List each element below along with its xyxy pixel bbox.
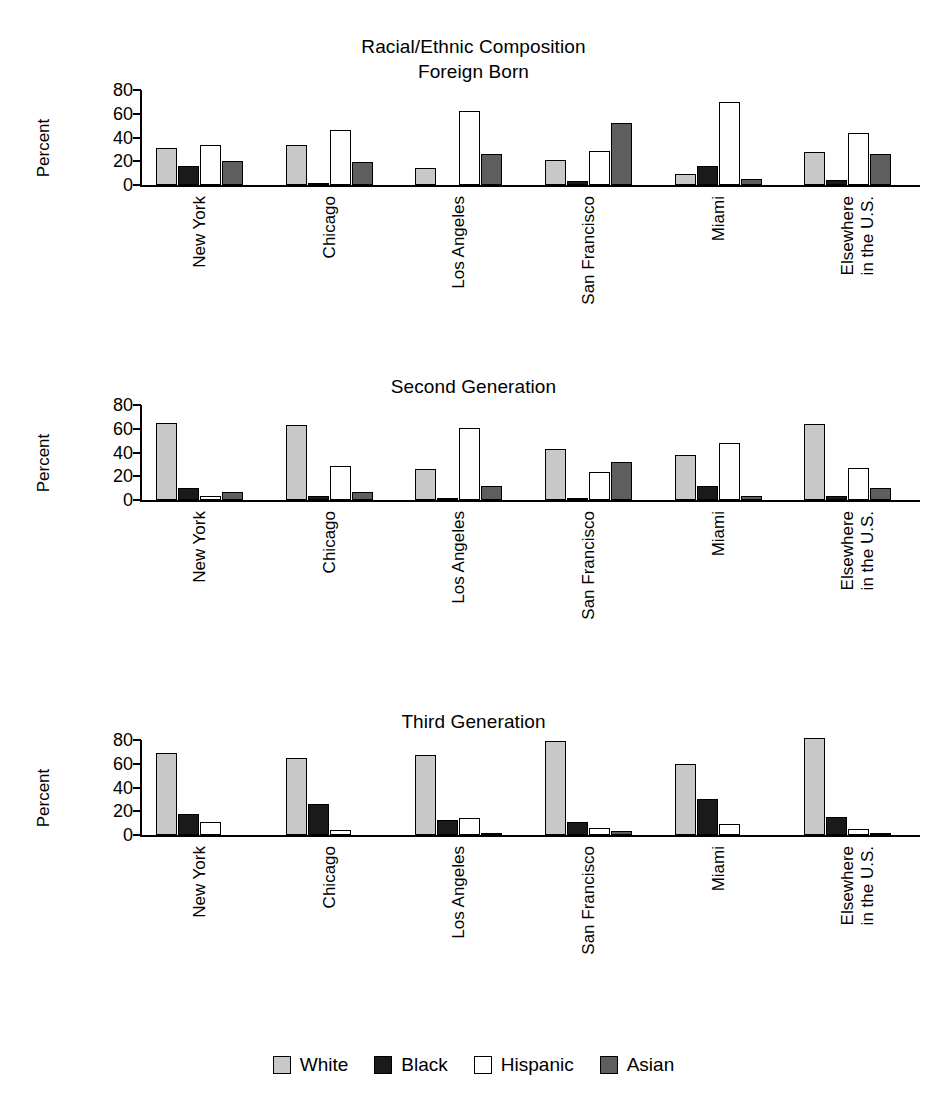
y-axis-label-0: Percent (34, 198, 134, 218)
bar-white (545, 741, 566, 835)
x-axis-line-1 (140, 500, 920, 502)
bar-white (156, 148, 177, 185)
y-tick-mark (133, 739, 141, 741)
bar-white (675, 174, 696, 185)
bar-group (415, 740, 503, 835)
chart-panel-third-generation: Third Generation Percent 020406080 New Y… (0, 705, 947, 1035)
y-tick-mark (133, 160, 141, 162)
bar-asian (481, 833, 502, 835)
y-axis-label-2: Percent (34, 848, 134, 868)
bar-group (415, 90, 503, 185)
bar-white (156, 423, 177, 500)
legend-swatch-asian (600, 1056, 618, 1074)
y-tick-label: 20 (113, 467, 133, 485)
bar-group (804, 740, 892, 835)
bar-group (286, 90, 374, 185)
x-tick-label-line: Miami (709, 846, 729, 978)
y-tick-mark (133, 787, 141, 789)
x-tick-labels-1: New YorkChicagoLos AngelesSan FranciscoM… (142, 507, 920, 642)
y-tick-label: 20 (113, 152, 133, 170)
x-tick-label-line: New York (190, 196, 210, 328)
plot-area-0: Percent 020406080 New YorkChicagoLos Ang… (0, 90, 947, 205)
panel-title-2: Third Generation (0, 705, 947, 734)
y-tick-labels-2: 020406080 (92, 740, 138, 835)
bar-white (545, 160, 566, 185)
legend-label-white: White (300, 1055, 349, 1074)
y-axis-label-1: Percent (34, 513, 134, 533)
y-tick-label: 0 (123, 826, 133, 844)
legend-item-asian[interactable]: Asian (600, 1055, 675, 1074)
y-tick-mark (133, 89, 141, 91)
x-tick-label-line: in the U.S. (858, 846, 878, 978)
y-axis-label-text-1: Percent (34, 413, 54, 513)
bar-white (545, 449, 566, 500)
bar-black (308, 496, 329, 500)
y-tick-mark (133, 475, 141, 477)
x-tick-label-line: New York (190, 511, 210, 643)
x-tick-label-line: Chicago (320, 511, 340, 643)
x-tick-label-line: Chicago (320, 846, 340, 978)
bar-hispanic (719, 443, 740, 500)
bar-group (286, 740, 374, 835)
y-tick-label: 40 (113, 779, 133, 797)
legend-swatch-white (273, 1056, 291, 1074)
bar-black (567, 498, 588, 500)
bar-group (545, 90, 633, 185)
bar-asian (870, 154, 891, 185)
bar-group (286, 405, 374, 500)
legend-item-black[interactable]: Black (374, 1055, 447, 1074)
legend-label-asian: Asian (627, 1055, 675, 1074)
legend-item-hispanic[interactable]: Hispanic (474, 1055, 574, 1074)
bar-white (415, 168, 436, 185)
bar-black (826, 180, 847, 185)
y-tick-label: 0 (123, 491, 133, 509)
x-tick-label-line: San Francisco (579, 511, 599, 643)
bar-asian (481, 154, 502, 185)
bar-black (567, 181, 588, 185)
bar-group (545, 740, 633, 835)
legend-item-white[interactable]: White (273, 1055, 349, 1074)
bar-hispanic (330, 466, 351, 500)
y-tick-mark (133, 184, 141, 186)
bar-black (178, 488, 199, 500)
x-tick-label-line: San Francisco (579, 846, 599, 978)
x-tick-label-line: Elsewhere (838, 196, 858, 328)
bar-asian (870, 833, 891, 835)
bar-hispanic (330, 830, 351, 835)
y-tick-mark (133, 810, 141, 812)
bar-black (826, 496, 847, 500)
y-tick-labels-0: 020406080 (92, 90, 138, 185)
x-tick-label-line: in the U.S. (858, 196, 878, 328)
panel-title-0: Racial/Ethnic Composition Foreign Born (0, 30, 947, 84)
y-tick-label: 20 (113, 802, 133, 820)
y-tick-label: 60 (113, 105, 133, 123)
bar-black (697, 799, 718, 835)
bar-hispanic (848, 829, 869, 835)
bar-black (697, 486, 718, 500)
bar-asian (741, 179, 762, 185)
plot-area-2: Percent 020406080 New YorkChicagoLos Ang… (0, 740, 947, 855)
chart-legend: WhiteBlackHispanicAsian (0, 1055, 947, 1074)
bar-white (286, 425, 307, 500)
y-axis-label-text-0: Percent (34, 98, 54, 198)
x-tick-label-line: Miami (709, 511, 729, 643)
x-tick-labels-0: New YorkChicagoLos AngelesSan FranciscoM… (142, 192, 920, 327)
bar-asian (741, 496, 762, 500)
bar-asian (611, 123, 632, 185)
y-tick-mark (133, 834, 141, 836)
chart-panel-second-generation: Second Generation Percent 020406080 New … (0, 370, 947, 700)
bar-white (804, 738, 825, 835)
bar-black (437, 820, 458, 835)
bar-group (804, 90, 892, 185)
x-tick-label-line: New York (190, 846, 210, 978)
bar-asian (222, 492, 243, 500)
bar-asian (611, 831, 632, 835)
y-tick-label: 80 (113, 396, 133, 414)
bar-white (156, 753, 177, 835)
y-tick-label: 80 (113, 81, 133, 99)
bar-white (804, 152, 825, 185)
x-tick-label-line: Los Angeles (449, 511, 469, 643)
bar-hispanic (330, 130, 351, 185)
x-axis-line-0 (140, 185, 920, 187)
y-tick-label: 0 (123, 176, 133, 194)
